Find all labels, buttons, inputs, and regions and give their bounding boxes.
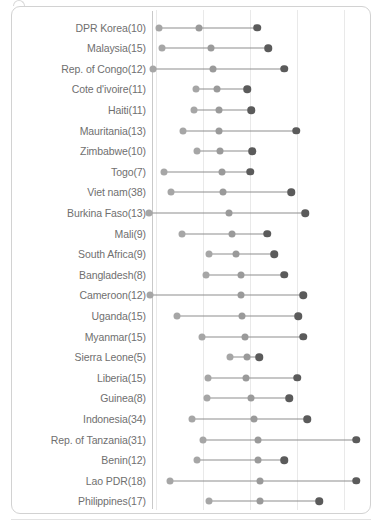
data-point-high[interactable] (293, 374, 301, 382)
data-point-high[interactable] (243, 86, 251, 94)
data-point-high[interactable] (352, 436, 360, 444)
data-point-high[interactable] (301, 209, 309, 217)
range-connector-line (150, 295, 303, 296)
data-point-low[interactable] (156, 24, 163, 31)
plot-area: DPR Korea(10)Malaysia(15)Rep. of Congo(1… (12, 7, 370, 513)
data-point-high[interactable] (292, 127, 300, 135)
range-connector-line (203, 439, 356, 440)
data-point-mid[interactable] (233, 251, 240, 258)
range-connector-line (196, 89, 247, 90)
chart-row: Liberia(15) (12, 367, 370, 388)
data-point-low[interactable] (167, 477, 174, 484)
data-point-mid[interactable] (208, 45, 215, 52)
data-point-high[interactable] (247, 106, 255, 114)
data-point-mid[interactable] (239, 313, 246, 320)
data-point-low[interactable] (146, 210, 153, 217)
data-point-mid[interactable] (242, 333, 249, 340)
data-point-mid[interactable] (248, 395, 255, 402)
data-point-high[interactable] (255, 353, 263, 361)
data-point-low[interactable] (147, 292, 154, 299)
data-point-high[interactable] (270, 250, 278, 258)
chart-row: DPR Korea(10) (12, 17, 370, 38)
data-point-low[interactable] (174, 313, 181, 320)
data-point-mid[interactable] (238, 271, 245, 278)
data-point-mid[interactable] (255, 436, 262, 443)
range-connector-line (197, 460, 284, 461)
data-point-mid[interactable] (257, 477, 264, 484)
row-label: Uganda(15) (12, 310, 146, 322)
row-label: Myanmar(15) (12, 331, 146, 343)
data-point-low[interactable] (194, 457, 201, 464)
data-point-low[interactable] (159, 45, 166, 52)
chart-row: Burkina Faso(13) (12, 202, 370, 223)
row-label: Cameroon(12) (12, 289, 146, 301)
data-point-mid[interactable] (255, 457, 262, 464)
data-point-high[interactable] (280, 65, 288, 73)
data-point-low[interactable] (179, 230, 186, 237)
data-point-low[interactable] (191, 107, 198, 114)
data-point-low[interactable] (180, 127, 187, 134)
chart-row: Viet nam(38) (12, 182, 370, 203)
data-point-high[interactable] (299, 333, 307, 341)
range-connector-line (177, 316, 298, 317)
data-point-mid[interactable] (220, 189, 227, 196)
chart-row: Guinea(8) (12, 388, 370, 409)
data-point-low[interactable] (150, 65, 157, 72)
data-point-low[interactable] (206, 498, 213, 505)
data-point-mid[interactable] (214, 86, 221, 93)
chart-row: Rep. of Congo(12) (12, 58, 370, 79)
chart-row: Philippines(17) (12, 491, 370, 512)
data-point-high[interactable] (315, 498, 323, 506)
data-point-high[interactable] (253, 24, 261, 32)
data-point-mid[interactable] (229, 230, 236, 237)
data-point-low[interactable] (204, 395, 211, 402)
data-point-low[interactable] (203, 271, 210, 278)
data-point-mid[interactable] (216, 107, 223, 114)
data-point-high[interactable] (299, 292, 307, 300)
data-point-high[interactable] (285, 395, 293, 403)
chart-row: Malaysia(15) (12, 38, 370, 59)
data-point-low[interactable] (200, 436, 207, 443)
range-connector-line (209, 254, 274, 255)
data-point-mid[interactable] (226, 210, 233, 217)
chart-row: Mauritania(13) (12, 120, 370, 141)
data-point-high[interactable] (248, 147, 256, 155)
data-point-mid[interactable] (238, 292, 245, 299)
chart-row: Lao PDR(18) (12, 470, 370, 491)
row-label: Benin(12) (12, 454, 146, 466)
data-point-low[interactable] (206, 251, 213, 258)
data-point-low[interactable] (205, 374, 212, 381)
data-point-high[interactable] (264, 44, 272, 52)
data-point-mid[interactable] (210, 65, 217, 72)
data-point-mid[interactable] (244, 354, 251, 361)
data-point-low[interactable] (193, 86, 200, 93)
row-label: Indonesia(34) (12, 413, 146, 425)
data-point-mid[interactable] (196, 24, 203, 31)
range-connector-line (194, 110, 251, 111)
data-point-mid[interactable] (216, 127, 223, 134)
data-point-high[interactable] (294, 312, 302, 320)
data-point-high[interactable] (246, 168, 254, 176)
chart-row: South Africa(9) (12, 244, 370, 265)
data-point-high[interactable] (352, 477, 360, 485)
data-point-high[interactable] (263, 230, 271, 238)
data-point-mid[interactable] (257, 498, 264, 505)
data-point-mid[interactable] (251, 416, 258, 423)
data-point-low[interactable] (199, 333, 206, 340)
data-point-high[interactable] (303, 415, 311, 423)
row-label: South Africa(9) (12, 248, 146, 260)
data-point-low[interactable] (161, 168, 168, 175)
data-point-high[interactable] (280, 456, 288, 464)
chart-row: Haiti(11) (12, 99, 370, 120)
data-point-mid[interactable] (219, 168, 226, 175)
chart-row: Myanmar(15) (12, 326, 370, 347)
data-point-low[interactable] (227, 354, 234, 361)
data-point-low[interactable] (189, 416, 196, 423)
data-point-high[interactable] (280, 271, 288, 279)
data-point-low[interactable] (168, 189, 175, 196)
data-point-high[interactable] (287, 189, 295, 197)
data-point-mid[interactable] (217, 148, 224, 155)
data-point-low[interactable] (194, 148, 201, 155)
range-connector-line (202, 336, 303, 337)
data-point-mid[interactable] (243, 374, 250, 381)
